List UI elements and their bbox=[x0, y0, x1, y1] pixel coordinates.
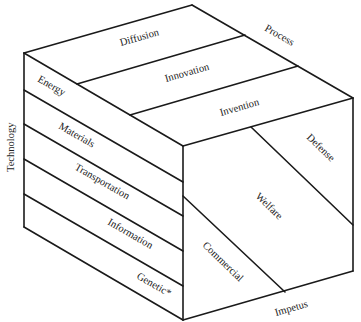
divider-innovation-invention bbox=[130, 66, 298, 115]
edge-bottom-right bbox=[183, 271, 353, 320]
edge-top-front-to-right bbox=[183, 98, 353, 146]
label-commercial: Commercial bbox=[201, 240, 246, 284]
edge-top-left-to-front bbox=[24, 53, 183, 146]
edge-top-left-to-back bbox=[24, 5, 192, 53]
label-diffusion: Diffusion bbox=[119, 26, 161, 48]
technology-cube-diagram: Diffusion Innovation Invention Energy Ma… bbox=[0, 0, 361, 322]
divider-materials-transportation bbox=[24, 124, 183, 216]
label-welfare: Welfare bbox=[254, 191, 286, 222]
edge-top-back-to-right bbox=[192, 5, 353, 98]
label-defense: Defense bbox=[305, 132, 338, 164]
axis-label-process: Process bbox=[263, 22, 296, 48]
edge-bottom-left bbox=[24, 227, 183, 320]
axis-label-technology: Technology bbox=[5, 122, 16, 172]
divider-diffusion-innovation bbox=[77, 35, 245, 84]
divider-information-genetic bbox=[24, 194, 183, 286]
divider-transportation-information bbox=[24, 159, 183, 251]
divider-energy-materials bbox=[24, 90, 183, 182]
label-materials: Materials bbox=[57, 120, 97, 149]
label-innovation: Innovation bbox=[164, 61, 211, 84]
label-invention: Invention bbox=[219, 96, 261, 118]
axis-label-impetus: Impetus bbox=[274, 298, 310, 318]
